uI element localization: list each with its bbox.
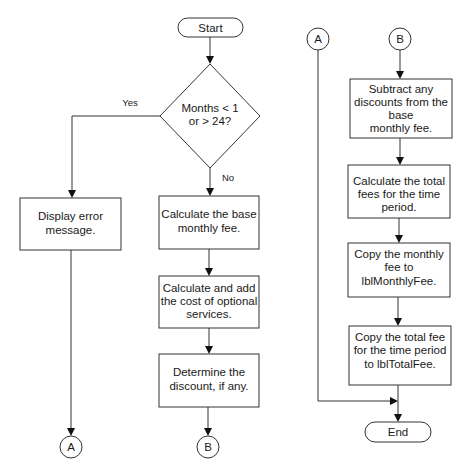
- step-line: period.: [381, 201, 416, 213]
- error-line1: Display error: [38, 210, 103, 222]
- step-line: Determine the: [173, 366, 245, 378]
- step-line: for the time period: [354, 344, 447, 356]
- error-line2: message.: [46, 224, 96, 236]
- step-copy-total-fee: Copy the total fee for the time period t…: [349, 326, 451, 385]
- step-calc-base-fee: Calculate the base monthly fee.: [159, 196, 259, 249]
- connector-a-out: A: [60, 436, 82, 458]
- connector-a-label: A: [67, 441, 75, 453]
- decision-line1: Months < 1: [181, 102, 238, 114]
- step-line: Copy the monthly: [354, 248, 444, 260]
- no-label: No: [222, 172, 234, 183]
- step-determine-discount: Determine the discount, if any.: [159, 354, 259, 407]
- start-terminator: Start: [178, 18, 243, 37]
- step-line: base: [389, 109, 414, 121]
- flowchart: Start Months < 1 or > 24? Yes No Display…: [0, 0, 474, 475]
- connector-b-label: B: [396, 33, 404, 45]
- step-line: Subtract any: [369, 83, 434, 95]
- step-line: discount, if any.: [169, 380, 248, 392]
- step-line: Calculate the base: [161, 208, 256, 220]
- connector-a-label: A: [314, 33, 322, 45]
- step-line: fee to: [385, 261, 414, 273]
- arrow-icon: [205, 346, 213, 354]
- decision-months: Months < 1 or > 24?: [160, 64, 260, 168]
- step-line: services.: [186, 308, 231, 320]
- connector-a-in: A: [307, 28, 329, 50]
- end-terminator: End: [365, 422, 431, 442]
- step-calc-total-fees: Calculate the total fees for the time pe…: [348, 165, 450, 218]
- connector-b-label: B: [204, 441, 212, 453]
- arrow-icon: [204, 428, 212, 436]
- step-line: discounts from the: [354, 96, 448, 108]
- arrow-icon: [206, 188, 214, 196]
- display-error-box: Display error message.: [20, 198, 121, 250]
- step-line: Copy the total fee: [355, 331, 445, 343]
- start-label: Start: [198, 22, 223, 34]
- step-line: the cost of optional: [161, 295, 258, 307]
- step-subtract-discounts: Subtract any discounts from the base mon…: [350, 79, 452, 138]
- step-add-optional-services: Calculate and add the cost of optional s…: [159, 276, 259, 328]
- yes-label: Yes: [122, 97, 138, 108]
- arrow-icon: [395, 235, 403, 243]
- arrow-icon: [394, 414, 402, 422]
- connector-b-in: B: [389, 28, 411, 50]
- step-line: lblMonthlyFee.: [362, 275, 437, 287]
- arrow-icon: [206, 56, 214, 64]
- arrow-icon: [390, 397, 398, 405]
- connector-b-out: B: [197, 436, 219, 458]
- step-line: to lblTotalFee.: [364, 358, 436, 370]
- end-label: End: [388, 426, 408, 438]
- arrow-icon: [396, 157, 404, 165]
- arrow-icon: [394, 318, 402, 326]
- step-copy-monthly-fee: Copy the monthly fee to lblMonthlyFee.: [348, 243, 450, 297]
- decision-line2: or > 24?: [189, 115, 232, 127]
- arrow-icon: [67, 428, 75, 436]
- step-line: fees for the time: [358, 188, 440, 200]
- step-line: Calculate and add: [163, 282, 256, 294]
- arrow-icon: [396, 71, 404, 79]
- step-line: monthly fee.: [370, 122, 433, 134]
- arrow-icon: [205, 268, 213, 276]
- step-line: monthly fee.: [178, 222, 241, 234]
- arrow-icon: [68, 190, 76, 198]
- step-line: Calculate the total: [353, 175, 445, 187]
